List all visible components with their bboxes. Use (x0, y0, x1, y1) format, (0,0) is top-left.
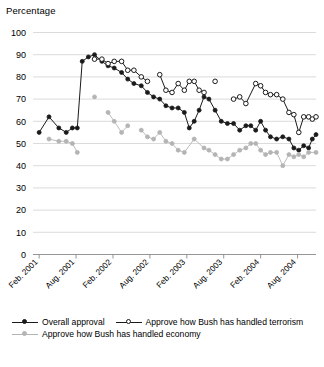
data-point (47, 137, 51, 141)
data-point (225, 122, 229, 126)
data-point (192, 79, 197, 84)
data-point (126, 124, 130, 128)
data-point (182, 110, 186, 114)
y-axis-tick-label: 70 (16, 94, 26, 104)
y-axis-tick-label: 20 (16, 205, 26, 215)
legend-marker-gray-circle-icon (12, 330, 38, 339)
data-point (314, 133, 318, 137)
data-point (139, 84, 143, 88)
data-point (302, 155, 306, 159)
data-point (307, 150, 311, 154)
data-point (112, 59, 117, 64)
data-point (238, 148, 242, 152)
data-point (100, 57, 105, 62)
data-point (219, 157, 223, 161)
data-point (139, 75, 144, 80)
x-axis-tick-label: Feb. 2002 (81, 257, 114, 290)
data-point (274, 92, 279, 97)
data-point (219, 119, 223, 123)
data-point (213, 108, 217, 112)
data-point (75, 150, 79, 154)
data-point (170, 106, 174, 110)
data-point (120, 70, 124, 74)
data-point (268, 150, 272, 154)
data-point (70, 142, 74, 146)
data-point (86, 55, 90, 59)
y-axis-tick-label: 50 (16, 139, 26, 149)
data-point (176, 148, 180, 152)
x-axis-tick-label: Feb. 2001 (7, 257, 40, 290)
data-point (202, 146, 206, 150)
data-point (192, 137, 196, 141)
data-point (296, 130, 301, 135)
data-point (139, 128, 143, 132)
y-axis-tick-label: 0 (21, 250, 26, 260)
data-point (225, 157, 229, 161)
data-point (244, 101, 249, 106)
data-point (158, 130, 162, 134)
data-point (292, 112, 297, 117)
data-point (254, 128, 258, 132)
data-point (213, 79, 218, 84)
data-point (264, 153, 268, 157)
data-point (275, 137, 279, 141)
series-line-2 (108, 112, 128, 132)
data-point (75, 126, 79, 130)
data-point (249, 124, 253, 128)
y-axis-tick-label: 40 (16, 161, 26, 171)
data-point (253, 81, 258, 86)
y-axis-tick-label: 10 (16, 228, 26, 238)
data-point (202, 95, 206, 99)
data-point (192, 119, 196, 123)
data-point (164, 139, 168, 143)
x-axis-tick-label: Aug. 2003 (191, 257, 224, 290)
data-point (232, 122, 236, 126)
data-point (80, 59, 84, 63)
x-axis-tick-label: Feb. 2003 (155, 257, 188, 290)
data-point (152, 95, 156, 99)
data-point (145, 90, 149, 94)
data-point (182, 88, 187, 93)
x-axis-tick-label: Aug. 2002 (118, 257, 151, 290)
data-point (231, 97, 236, 102)
legend-marker-open-circle-icon (116, 318, 142, 327)
data-point (287, 137, 291, 141)
data-point (287, 110, 292, 115)
y-axis-tick-label: 30 (16, 183, 26, 193)
data-point (237, 95, 242, 100)
data-point (70, 126, 74, 130)
plot-area: 0102030405060708090100Feb. 2001Aug. 2001… (0, 0, 324, 367)
data-point (207, 97, 211, 101)
data-point (112, 66, 116, 70)
legend-label: Approve how Bush has handled economy (42, 328, 201, 340)
data-point (176, 106, 180, 110)
data-point (187, 79, 192, 84)
legend-label: Overall approval (42, 316, 105, 328)
data-point (37, 130, 41, 134)
data-point (292, 155, 296, 159)
legend-item-overall-approval: Overall approval (12, 316, 105, 328)
data-point (275, 150, 279, 154)
data-point (64, 130, 68, 134)
data-point (164, 88, 169, 93)
data-point (120, 130, 124, 134)
data-point (182, 150, 186, 154)
x-axis-tick-label: Feb. 2004 (229, 257, 262, 290)
x-axis-tick-label: Aug. 2001 (44, 257, 77, 290)
data-point (292, 146, 296, 150)
data-point (158, 97, 162, 101)
legend-row-1: Overall approval Approve how Bush has ha… (12, 316, 324, 328)
data-point (93, 53, 97, 57)
data-point (197, 108, 201, 112)
data-point (281, 135, 285, 139)
data-point (119, 59, 124, 64)
data-point (92, 57, 97, 62)
data-point (254, 142, 258, 146)
data-point (244, 124, 248, 128)
legend-label: Approve how Bush has handled terrorism (146, 316, 304, 328)
data-point (202, 90, 207, 95)
data-point (187, 126, 191, 130)
y-axis-tick-label: 80 (16, 72, 26, 82)
chart-svg: 0102030405060708090100Feb. 2001Aug. 2001… (0, 0, 324, 367)
data-point (297, 148, 301, 152)
